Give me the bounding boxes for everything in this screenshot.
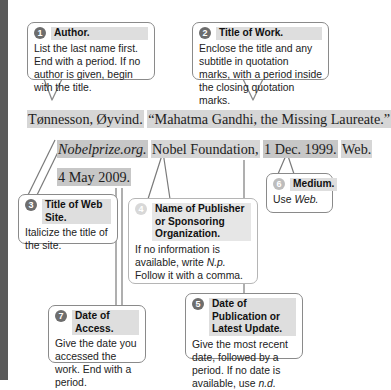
- callout-title: Author.: [51, 27, 148, 40]
- callout-title-of-web-site: 3 Title of Web Site. Italicize the title…: [18, 194, 118, 244]
- number-badge: 1: [34, 27, 46, 39]
- callout-body: List the last name first. End with a per…: [34, 42, 148, 94]
- callout-author: 1 Author. List the last name first. End …: [27, 22, 155, 80]
- number-badge: 4: [135, 203, 147, 215]
- callout-date-of-access: 7 Date of Access. Give the date you acce…: [48, 305, 146, 363]
- citation-line-3: 4 May 2009.: [57, 168, 131, 186]
- number-badge: 2: [199, 27, 211, 39]
- callout-title: Medium.: [290, 178, 337, 191]
- number-badge: 7: [55, 310, 67, 322]
- citation-line-1: Tønnesson, Øyvind. “Mahatma Gandhi, the …: [27, 110, 391, 128]
- callout-title: Date of Access.: [72, 310, 139, 335]
- citation-line-2: Nobelprize.org. Nobel Foundation, 1 Dec.…: [57, 140, 372, 158]
- citation-web-site-title: Nobelprize.org.: [57, 140, 148, 158]
- number-badge: 5: [192, 298, 204, 310]
- citation-publisher: Nobel Foundation,: [151, 140, 259, 158]
- citation-author: Tønnesson, Øyvind.: [27, 110, 144, 128]
- callout-title: Date of Publication or Latest Update.: [209, 298, 296, 336]
- callout-body: If no information is available, write N.…: [135, 243, 251, 282]
- number-badge: 6: [273, 178, 285, 190]
- callout-publisher: 4 Name of Publisher or Sponsoring Organi…: [128, 198, 258, 284]
- callout-title: Title of Work.: [216, 27, 322, 40]
- callout-body: Give the most recent date, followed by a…: [192, 338, 296, 390]
- callout-title: Title of Web Site.: [42, 199, 111, 224]
- callout-body: Enclose the title and any subtitle in qu…: [199, 42, 322, 107]
- callout-body: Use Web.: [273, 193, 326, 206]
- citation-medium: Web.: [341, 140, 372, 158]
- callout-body: Give the date you accessed the work. End…: [55, 337, 139, 389]
- citation-publication-date: 1 Dec. 1999.: [263, 140, 338, 158]
- callout-title: Name of Publisher or Sponsoring Organiza…: [152, 203, 251, 241]
- number-badge: 3: [25, 199, 37, 211]
- callout-medium: 6 Medium. Use Web.: [266, 173, 333, 213]
- citation-title-of-work: “Mahatma Gandhi, the Missing Laureate.”: [147, 110, 391, 128]
- callout-publication-date: 5 Date of Publication or Latest Update. …: [185, 293, 303, 359]
- callout-title-of-work: 2 Title of Work. Enclose the title and a…: [192, 22, 329, 80]
- citation-access-date: 4 May 2009.: [57, 168, 131, 186]
- callout-body: Italicize the title of the site.: [25, 226, 111, 252]
